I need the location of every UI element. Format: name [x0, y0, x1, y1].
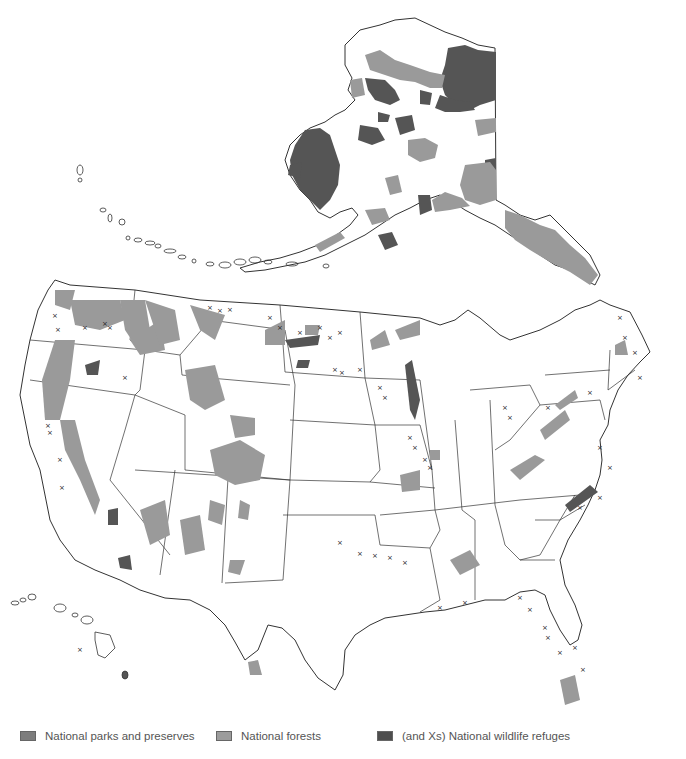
forests-swatch-icon — [216, 731, 232, 741]
svg-text:×: × — [545, 404, 551, 412]
svg-text:×: × — [462, 599, 468, 607]
svg-text:×: × — [57, 456, 63, 464]
svg-text:×: × — [632, 349, 638, 357]
svg-text:×: × — [59, 484, 65, 492]
svg-text:×: × — [107, 324, 113, 332]
svg-text:×: × — [77, 646, 83, 654]
svg-text:×: × — [217, 307, 223, 315]
hawaii — [11, 594, 128, 679]
svg-text:×: × — [407, 434, 413, 442]
svg-text:×: × — [637, 374, 643, 382]
aleutian-islands — [77, 165, 329, 268]
legend-label-refuges: (and Xs) National wildlife refuges — [402, 730, 570, 742]
svg-text:×: × — [622, 334, 628, 342]
svg-text:×: × — [402, 559, 408, 567]
refuge-kodiak — [378, 232, 398, 250]
svg-text:×: × — [317, 324, 323, 332]
parks-swatch-icon — [20, 731, 36, 741]
legend-label-parks: National parks and preserves — [45, 730, 195, 742]
svg-text:×: × — [339, 369, 345, 377]
svg-text:×: × — [617, 314, 623, 322]
refuge-kenai — [418, 195, 432, 215]
svg-text:×: × — [277, 324, 283, 332]
svg-text:×: × — [82, 324, 88, 332]
alaska — [77, 18, 600, 285]
svg-text:×: × — [545, 634, 551, 642]
legend-item-forests: National forests — [216, 730, 321, 742]
svg-text:×: × — [557, 649, 563, 657]
svg-text:×: × — [207, 304, 213, 312]
svg-text:×: × — [332, 366, 338, 374]
svg-text:×: × — [267, 314, 273, 322]
legend-item-parks: National parks and preserves — [20, 730, 195, 742]
svg-text:×: × — [577, 504, 583, 512]
svg-text:×: × — [422, 456, 428, 464]
refuges-swatch-icon — [377, 731, 393, 741]
svg-text:×: × — [437, 604, 443, 612]
svg-text:×: × — [337, 329, 343, 337]
svg-text:×: × — [542, 624, 548, 632]
svg-text:×: × — [327, 334, 333, 342]
svg-text:×: × — [597, 444, 603, 452]
svg-text:×: × — [580, 666, 586, 674]
svg-text:×: × — [47, 429, 53, 437]
park-wrangell — [460, 162, 496, 205]
us-public-lands-map: ××××× ××××× ××××× ×××× ××××× ×××× ××××× … — [0, 0, 686, 715]
svg-text:×: × — [227, 306, 233, 314]
svg-text:×: × — [412, 444, 418, 452]
svg-text:×: × — [427, 464, 433, 472]
svg-text:×: × — [587, 389, 593, 397]
contiguous-us: ××××× ××××× ××××× ×××× ××××× ×××× ××××× … — [11, 280, 650, 705]
legend-item-refuges: (and Xs) National wildlife refuges — [377, 730, 570, 742]
svg-text:×: × — [357, 366, 363, 374]
conus-outline — [20, 280, 650, 690]
svg-text:×: × — [387, 554, 393, 562]
svg-text:×: × — [297, 329, 303, 337]
svg-text:×: × — [527, 606, 533, 614]
svg-text:×: × — [337, 539, 343, 547]
svg-text:×: × — [507, 414, 513, 422]
map-legend: National parks and preserves National fo… — [0, 720, 686, 759]
svg-text:×: × — [372, 552, 378, 560]
svg-text:×: × — [597, 494, 603, 502]
svg-text:×: × — [52, 312, 58, 320]
svg-text:×: × — [502, 404, 508, 412]
svg-text:×: × — [377, 384, 383, 392]
svg-text:×: × — [122, 374, 128, 382]
svg-text:×: × — [607, 464, 613, 472]
svg-text:×: × — [517, 594, 523, 602]
svg-text:×: × — [357, 550, 363, 558]
svg-text:×: × — [382, 394, 388, 402]
svg-text:×: × — [55, 326, 61, 334]
legend-label-forests: National forests — [241, 730, 321, 742]
svg-text:×: × — [572, 644, 578, 652]
